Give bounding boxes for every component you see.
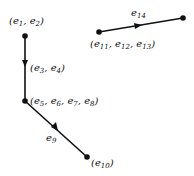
node-n4-label: (e11, e12, e13) [90, 38, 155, 51]
node-n1 [22, 33, 28, 39]
node-n2-label: (e5, e6, e7, e8) [30, 95, 99, 108]
edge-n4-n5-label: e14 [131, 7, 146, 20]
arrow-right-icon [134, 23, 142, 29]
node-n1-label: (e1, e2) [9, 15, 44, 28]
graph-canvas: (e1, e2) (e3, e4) (e5, e6, e7, e8) e9 (e… [0, 0, 194, 176]
node-n5 [180, 15, 186, 21]
edge-n1-n2-label: (e3, e4) [30, 62, 65, 75]
arrow-diagonal-icon [51, 122, 58, 131]
edge-n2-n3-label: e9 [46, 132, 57, 145]
node-n3-label: (e10) [91, 157, 114, 170]
arrow-down-icon [22, 60, 28, 67]
node-n2 [22, 98, 28, 104]
node-n4 [96, 29, 102, 35]
node-n3 [84, 154, 90, 160]
